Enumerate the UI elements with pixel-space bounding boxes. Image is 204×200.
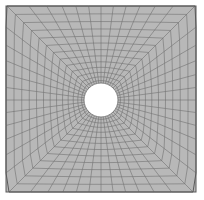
mesh-svg [0, 0, 204, 200]
hole-circle [84, 83, 118, 117]
hole-group [84, 83, 118, 117]
mesh-figure [0, 0, 204, 200]
